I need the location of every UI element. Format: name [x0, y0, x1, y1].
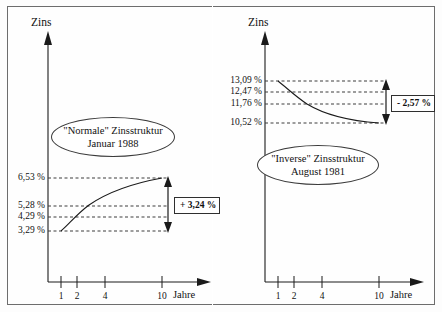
right-y-label-0: 13,09 %	[218, 75, 262, 85]
right-x-label-1: 2	[284, 291, 304, 301]
right-x-axis-title: Jahre	[390, 289, 412, 300]
right-y-label-2: 11,76 %	[218, 98, 262, 108]
right-y-axis-arrowhead	[261, 31, 269, 45]
left-x-label-1: 2	[67, 291, 87, 301]
right-callout-line-1: "Inverse" Zinsstruktur	[268, 152, 368, 165]
left-y-label-2: 4,29 %	[7, 211, 45, 221]
left-x-label-3: 10	[152, 291, 172, 301]
left-x-label-2: 4	[95, 291, 115, 301]
right-y-label-1: 12,47 %	[218, 86, 262, 96]
right-y-axis-title: Zins	[248, 16, 268, 28]
left-y-label-0: 6,53 %	[7, 172, 45, 182]
left-callout-line-2: Januar 1988	[62, 137, 164, 150]
left-callout-line-1: "Normale" Zinsstruktur	[62, 124, 164, 137]
right-callout-bubble: "Inverse" Zinsstruktur August 1981	[257, 145, 379, 185]
right-x-axis-arrowhead	[410, 278, 424, 286]
left-y-label-1: 5,28 %	[7, 200, 45, 210]
left-y-axis-title: Zins	[31, 16, 51, 28]
left-x-axis-arrowhead	[197, 278, 211, 286]
left-y-axis-arrowhead	[44, 31, 52, 45]
left-yield-curve	[61, 178, 162, 231]
left-x-axis-title: Jahre	[173, 289, 195, 300]
right-callout-line-2: August 1981	[268, 165, 368, 178]
chart-panel-inverse: Zins Jahre 13,09 % 12,47 % 11,76 % 10,52…	[221, 6, 435, 305]
right-yield-curve	[278, 81, 379, 123]
figure-root: Zins Jahre 6,53 % 5,28 % 4,29 % 3,29 % 1…	[0, 0, 442, 312]
chart-panel-normal: Zins Jahre 6,53 % 5,28 % 4,29 % 3,29 % 1…	[7, 6, 221, 305]
left-y-label-3: 3,29 %	[7, 225, 45, 235]
right-x-label-3: 10	[369, 291, 389, 301]
right-delta-label: - 2,57 %	[391, 95, 435, 112]
right-x-label-2: 4	[312, 291, 332, 301]
left-callout-bubble: "Normale" Zinsstruktur Januar 1988	[51, 117, 175, 157]
left-delta-label: + 3,24 %	[174, 197, 220, 214]
right-y-label-3: 10,52 %	[218, 117, 262, 127]
